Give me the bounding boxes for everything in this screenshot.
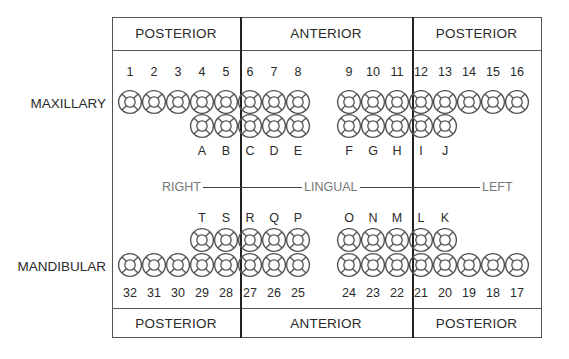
tooth-icon[interactable]: [189, 252, 215, 278]
maxillary-tooth-number: 12: [409, 65, 433, 79]
tooth-icon[interactable]: [408, 113, 434, 139]
tooth-icon[interactable]: [504, 252, 530, 278]
maxillary-primary-letter: C: [238, 144, 262, 158]
tooth-icon[interactable]: [213, 113, 239, 139]
tooth-numbering-chart: POSTERIOR ANTERIOR POSTERIOR POSTERIOR A…: [0, 0, 569, 359]
top-section-posterior-left: POSTERIOR: [412, 26, 541, 41]
tooth-icon[interactable]: [432, 252, 458, 278]
tooth-icon[interactable]: [141, 89, 167, 115]
maxillary-tooth-number: 8: [286, 65, 310, 79]
mandibular-primary-letter: S: [214, 211, 238, 225]
tooth-icon[interactable]: [261, 89, 287, 115]
tooth-icon[interactable]: [213, 252, 239, 278]
tooth-icon[interactable]: [432, 113, 458, 139]
tooth-icon[interactable]: [432, 227, 458, 253]
mandibular-tooth-number: 25: [286, 286, 310, 300]
tooth-icon[interactable]: [480, 89, 506, 115]
tooth-icon[interactable]: [237, 89, 263, 115]
tooth-icon[interactable]: [261, 113, 287, 139]
tooth-icon[interactable]: [360, 89, 386, 115]
tooth-icon[interactable]: [384, 227, 410, 253]
maxillary-primary-letter: A: [190, 144, 214, 158]
mandibular-tooth-number: 32: [118, 286, 142, 300]
tooth-icon[interactable]: [336, 227, 362, 253]
top-section-anterior: ANTERIOR: [240, 26, 412, 41]
tooth-icon[interactable]: [141, 252, 167, 278]
mandibular-tooth-number: 29: [190, 286, 214, 300]
mandibular-tooth-number: 18: [481, 286, 505, 300]
mandibular-primary-letter: N: [361, 211, 385, 225]
mandibular-tooth-number: 28: [214, 286, 238, 300]
tooth-icon[interactable]: [384, 89, 410, 115]
tooth-icon[interactable]: [165, 89, 191, 115]
bottom-footer-divider: [112, 308, 542, 309]
maxillary-tooth-number: 9: [337, 65, 361, 79]
tooth-icon[interactable]: [432, 89, 458, 115]
tooth-icon[interactable]: [408, 227, 434, 253]
tooth-icon[interactable]: [285, 89, 311, 115]
tooth-icon[interactable]: [285, 113, 311, 139]
orientation-lingual-label: LINGUAL: [302, 180, 360, 194]
maxillary-primary-letter: F: [337, 144, 361, 158]
mandibular-primary-letter: Q: [262, 211, 286, 225]
maxillary-tooth-number: 7: [262, 65, 286, 79]
tooth-icon[interactable]: [360, 113, 386, 139]
bottom-section-posterior-right: POSTERIOR: [112, 316, 240, 331]
maxillary-tooth-number: 4: [190, 65, 214, 79]
mandibular-label: MANDIBULAR: [0, 259, 106, 274]
mandibular-tooth-number: 30: [166, 286, 190, 300]
maxillary-tooth-number: 2: [142, 65, 166, 79]
tooth-icon[interactable]: [480, 252, 506, 278]
maxillary-tooth-number: 1: [118, 65, 142, 79]
tooth-icon[interactable]: [117, 89, 143, 115]
tooth-icon[interactable]: [456, 252, 482, 278]
orientation-right-label: RIGHT: [160, 180, 203, 194]
maxillary-primary-letter: I: [409, 144, 433, 158]
maxillary-primary-letter: B: [214, 144, 238, 158]
mandibular-tooth-number: 22: [385, 286, 409, 300]
tooth-icon[interactable]: [456, 89, 482, 115]
maxillary-tooth-number: 11: [385, 65, 409, 79]
tooth-icon[interactable]: [261, 227, 287, 253]
tooth-icon[interactable]: [285, 227, 311, 253]
mandibular-tooth-number: 20: [433, 286, 457, 300]
tooth-icon[interactable]: [189, 113, 215, 139]
top-section-posterior-right: POSTERIOR: [112, 26, 240, 41]
maxillary-tooth-number: 13: [433, 65, 457, 79]
top-header-divider: [112, 50, 542, 51]
maxillary-primary-letter: E: [286, 144, 310, 158]
tooth-icon[interactable]: [384, 113, 410, 139]
tooth-icon[interactable]: [261, 252, 287, 278]
maxillary-tooth-number: 5: [214, 65, 238, 79]
tooth-icon[interactable]: [117, 252, 143, 278]
tooth-icon[interactable]: [285, 252, 311, 278]
tooth-icon[interactable]: [237, 227, 263, 253]
tooth-icon[interactable]: [504, 89, 530, 115]
tooth-icon[interactable]: [213, 89, 239, 115]
mandibular-primary-letter: K: [433, 211, 457, 225]
tooth-icon[interactable]: [360, 252, 386, 278]
tooth-icon[interactable]: [360, 227, 386, 253]
tooth-icon[interactable]: [408, 252, 434, 278]
tooth-icon[interactable]: [336, 252, 362, 278]
tooth-icon[interactable]: [336, 89, 362, 115]
maxillary-label: MAXILLARY: [0, 96, 106, 111]
mandibular-tooth-number: 23: [361, 286, 385, 300]
maxillary-tooth-number: 10: [361, 65, 385, 79]
tooth-icon[interactable]: [165, 252, 191, 278]
tooth-icon[interactable]: [384, 252, 410, 278]
maxillary-tooth-number: 3: [166, 65, 190, 79]
orientation-left-label: LEFT: [480, 180, 515, 194]
tooth-icon[interactable]: [336, 113, 362, 139]
maxillary-tooth-number: 15: [481, 65, 505, 79]
tooth-icon[interactable]: [213, 227, 239, 253]
maxillary-primary-letter: G: [361, 144, 385, 158]
tooth-icon[interactable]: [237, 252, 263, 278]
bottom-section-anterior: ANTERIOR: [240, 316, 412, 331]
tooth-icon[interactable]: [408, 89, 434, 115]
tooth-icon[interactable]: [189, 89, 215, 115]
tooth-icon[interactable]: [237, 113, 263, 139]
tooth-icon[interactable]: [189, 227, 215, 253]
bottom-section-posterior-left: POSTERIOR: [412, 316, 541, 331]
mandibular-tooth-number: 24: [337, 286, 361, 300]
